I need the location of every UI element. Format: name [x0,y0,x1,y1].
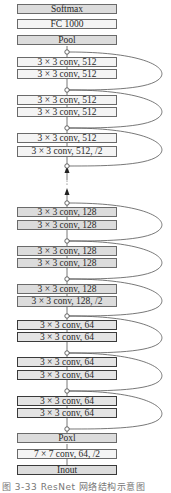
conv64-layer: 3 × 3 conv, 64 [17,370,117,380]
conv512-downsample-layer: 3 × 3 conv, 512, /2 [17,146,117,157]
input-layer: Inout [17,465,117,475]
pool-layer-top: Pool [17,35,117,45]
conv64-layer: 3 × 3 conv, 64 [17,357,117,367]
conv512-layer: 3 × 3 conv, 512 [17,69,117,79]
conv64-layer: 3 × 3 conv, 64 [17,332,117,342]
conv7x7-layer: 7 × 7 conv, 64, /2 [17,449,117,459]
conv128-layer: 3 × 3 conv, 128 [17,284,117,294]
conv512-layer: 3 × 3 conv, 512 [17,133,117,143]
conv128-layer: 3 × 3 conv, 128 [17,220,117,230]
conv128-layer: 3 × 3 conv, 128 [17,246,117,256]
fc-layer: FC 1000 [17,19,117,29]
conv128-layer: 3 × 3 conv, 128 [17,258,117,268]
conv64-layer: 3 × 3 conv, 64 [17,408,117,418]
conv128-layer: 3 × 3 conv, 128 [17,207,117,217]
conv64-layer: 3 × 3 conv, 64 [17,320,117,330]
conv512-layer: 3 × 3 conv, 512 [17,95,117,105]
conv128-downsample-layer: 3 × 3 conv, 128, /2 [17,296,117,307]
conv512-layer: 3 × 3 conv, 512 [17,107,117,117]
softmax-layer: Softmax [17,4,117,14]
pool-layer-bottom: Poxl [17,433,117,443]
figure-caption: 图 3-33 ResNet 网络结构示意图 [2,480,145,493]
conv512-layer: 3 × 3 conv, 512 [17,57,117,67]
conv64-layer: 3 × 3 conv, 64 [17,396,117,406]
